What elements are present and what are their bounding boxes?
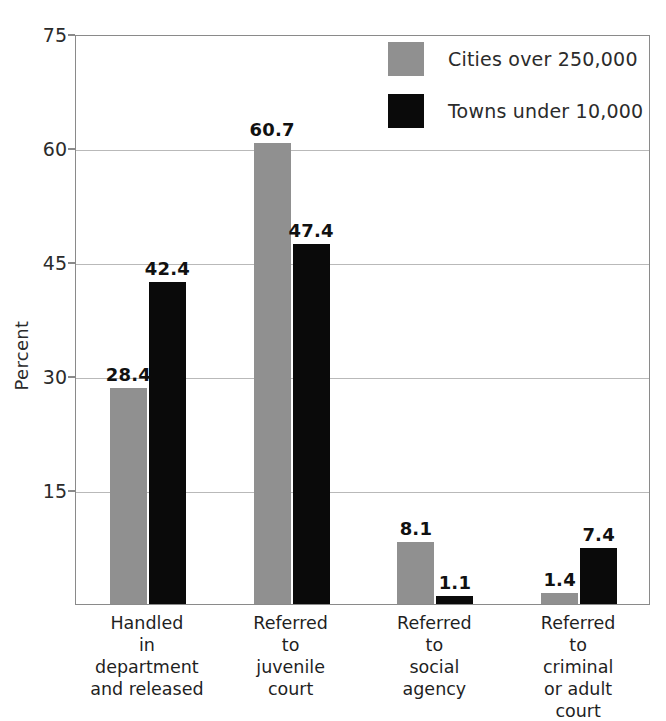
y-tick-label-75: 75 — [20, 24, 67, 46]
bar-value-cities-1: 60.7 — [250, 119, 295, 140]
gridline-60 — [76, 150, 649, 151]
y-axis-title: Percent — [11, 266, 32, 446]
bar-value-cities-2: 8.1 — [400, 518, 433, 539]
y-tick-label-60: 60 — [20, 138, 67, 160]
x-category-label-0: Handled in department and released — [90, 612, 203, 700]
y-tick-mark-15 — [68, 490, 75, 492]
bar-value-towns-0: 42.4 — [145, 258, 190, 279]
bar-value-towns-2: 1.1 — [439, 572, 472, 593]
x-category-label-2: Referred to social agency — [397, 612, 472, 700]
x-category-label-3: Referred to criminal or adult court — [541, 612, 616, 721]
legend-swatch-cities — [388, 42, 424, 76]
y-tick-mark-30 — [68, 376, 75, 378]
legend-swatch-towns — [388, 94, 424, 128]
bar-value-cities-0: 28.4 — [106, 364, 151, 385]
bar-value-cities-3: 1.4 — [543, 569, 576, 590]
legend-item-cities: Cities over 250,000 — [388, 42, 638, 76]
y-tick-label-45: 45 — [20, 252, 67, 274]
y-tick-label-15: 15 — [20, 480, 67, 502]
bar-towns-2 — [436, 596, 473, 604]
legend-label-cities: Cities over 250,000 — [448, 48, 638, 70]
x-category-label-1: Referred to juvenile court — [253, 612, 328, 700]
legend: Cities over 250,000 Towns under 10,000 — [388, 42, 638, 146]
bar-cities-2 — [397, 542, 434, 604]
bar-cities-3 — [541, 593, 578, 604]
bar-towns-0 — [149, 282, 186, 604]
y-tick-mark-75 — [68, 34, 75, 36]
y-tick-mark-45 — [68, 262, 75, 264]
bar-cities-0 — [110, 388, 147, 604]
legend-item-towns: Towns under 10,000 — [388, 94, 638, 128]
bar-towns-3 — [580, 548, 617, 604]
bar-value-towns-3: 7.4 — [582, 524, 615, 545]
bar-value-towns-1: 47.4 — [289, 220, 334, 241]
bar-towns-1 — [293, 244, 330, 604]
y-tick-mark-60 — [68, 148, 75, 150]
legend-label-towns: Towns under 10,000 — [448, 100, 643, 122]
bar-cities-1 — [254, 143, 291, 604]
y-tick-label-30: 30 — [20, 366, 67, 388]
